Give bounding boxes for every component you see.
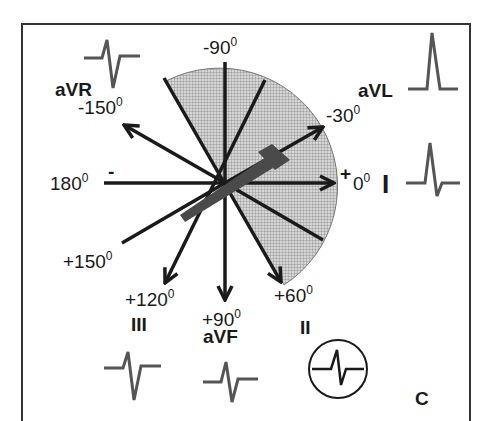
lead-label-iii: III — [131, 314, 147, 335]
svg-text:+1500: +1500 — [63, 249, 113, 272]
svg-text:-900: -900 — [203, 35, 237, 58]
waveform-avf — [203, 362, 258, 402]
svg-text:-300: -300 — [326, 103, 360, 126]
lead-label-ii: II — [300, 317, 311, 338]
negative-pole-mark: - — [108, 161, 114, 182]
lead-label-avr: aVR — [55, 79, 92, 100]
panel-label: C — [415, 388, 429, 409]
waveform-avr — [84, 40, 140, 88]
svg-text:+1200: +1200 — [125, 287, 175, 310]
positive-pole-mark: + — [340, 163, 351, 184]
svg-text:00: 00 — [353, 171, 371, 194]
lead-label-avf: aVF — [203, 326, 238, 347]
hexaxial-diagram: -900 -1500 -300 00 1800 +1500 +1200 +900… — [0, 0, 481, 421]
waveform-avl — [408, 33, 458, 89]
lead-label-i: I — [382, 169, 389, 199]
svg-text:+600: +600 — [274, 283, 313, 306]
lead-label-avl: aVL — [358, 80, 393, 101]
waveform-i — [406, 143, 460, 196]
waveform-iii — [104, 352, 161, 400]
svg-text:1800: 1800 — [50, 171, 89, 194]
waveform-ii — [312, 350, 364, 385]
